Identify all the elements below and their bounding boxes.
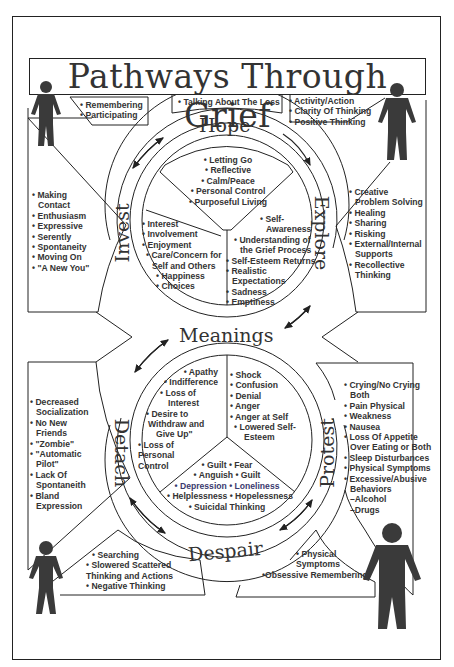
list-item: Symptoms	[262, 559, 368, 569]
list-item: • Happiness	[142, 271, 222, 281]
list-item: • Loss of	[138, 388, 218, 398]
box-right-lower: • Crying/No Crying Both • Pain Physical …	[344, 380, 431, 515]
sector-despair: • Guilt • Fear • Anguish • Guilt • Depre…	[167, 460, 287, 512]
box-left-lower: • Decreased Socialization • No New Frien…	[30, 397, 89, 511]
list-item: • Creative	[349, 187, 423, 197]
list-item: Problem Solving	[349, 197, 423, 207]
list-item: • Recollective	[349, 260, 423, 270]
list-item: • Helplessness • Hopelessness	[167, 491, 287, 501]
list-item: • Loss Of Appetite	[344, 432, 431, 442]
list-item: • Weakness	[344, 411, 431, 421]
list-item: • Indifference	[138, 377, 218, 387]
list-item: Give Up"	[138, 429, 218, 439]
list-item: • Interest	[142, 219, 222, 229]
list-item: Esteem	[230, 432, 296, 442]
list-item: • Reflective	[183, 165, 273, 175]
list-item: • Letting Go	[183, 155, 273, 165]
list-item: • Spontaneity	[32, 242, 89, 252]
list-item: –Alcohol	[344, 494, 431, 504]
list-item: • Sadness	[226, 287, 315, 297]
list-item: Supports	[349, 249, 423, 259]
list-item: • Involvement	[142, 229, 222, 239]
list-item: • Crying/No Crying	[344, 380, 431, 390]
list-item: • Self-	[226, 214, 315, 224]
list-item: • Anguish • Guilt	[167, 470, 287, 480]
box-top-left: • Remembering • Participating	[80, 100, 143, 121]
stage-protest: Protest	[316, 418, 338, 488]
list-item: Both	[344, 390, 431, 400]
list-item: • Self-Esteem Returns	[226, 256, 315, 266]
list-item: • Sharing	[349, 218, 423, 228]
list-item: • Slowered Scattered	[86, 560, 173, 570]
list-item: • Sleep Disturbances	[344, 453, 431, 463]
list-item: Thinking	[349, 270, 423, 280]
list-item: Contact	[32, 200, 89, 210]
list-item: • Lack Of	[30, 470, 89, 480]
list-item: • Clarity Of Thinking	[289, 106, 371, 116]
list-item: • Understanding of	[226, 235, 315, 245]
sector-explore: • Self- Awareness • Understanding of the…	[226, 214, 315, 308]
list-item: • Anger at Self	[230, 412, 296, 422]
list-item: • Physical Symptoms	[344, 463, 431, 473]
list-item: • Negative Thinking	[86, 581, 173, 591]
sector-hope: • Letting Go • Reflective • Calm/Peace •…	[183, 155, 273, 207]
list-item: • Realistic	[226, 266, 315, 276]
list-item: • Searching	[86, 550, 173, 560]
box-left-upper: • Making Contact • Enthusiasm • Expressi…	[32, 190, 89, 273]
list-item: Thinking and Actions	[86, 571, 173, 581]
list-item: • Physical	[262, 549, 368, 559]
list-item: • "Automatic	[30, 449, 89, 459]
list-item: • Guilt • Fear	[167, 460, 287, 470]
list-item: • Positive Thinking	[289, 117, 371, 127]
list-item: • Excessive/Abusive	[344, 474, 431, 484]
list-item: • Nausea	[344, 422, 431, 432]
title-box: Pathways Through Grief	[29, 58, 426, 95]
list-item: • Healing	[349, 208, 423, 218]
list-item: • Depression • Loneliness	[167, 481, 287, 491]
list-item: Withdraw and	[138, 419, 218, 429]
stage-detach: Detach	[111, 419, 133, 487]
list-item: Friends	[30, 428, 89, 438]
list-item: • Serently	[32, 232, 89, 242]
list-item: Expression	[30, 501, 89, 511]
list-item: the Grief Process	[226, 245, 315, 255]
box-top-center: • Talking About The Loss	[178, 97, 280, 107]
list-item: •Obsessive Remembering	[262, 570, 368, 580]
list-item: • Apathy	[138, 367, 218, 377]
list-item: • Choices	[142, 281, 222, 291]
list-item: • Remembering	[80, 100, 143, 110]
list-item: Socialization	[30, 407, 89, 417]
list-item: • Personal Control	[183, 186, 273, 196]
sector-protest: • Shock • Confusion • Denial • Anger • A…	[230, 370, 296, 443]
list-item: • Calm/Peace	[183, 176, 273, 186]
box-bottom-left: • Searching • Slowered Scattered Thinkin…	[86, 550, 173, 592]
box-right-upper: • Creative Problem Solving • Healing • S…	[349, 187, 423, 281]
list-item: • "A New You"	[32, 263, 89, 273]
list-item: • Enjoyment	[142, 240, 222, 250]
stage-meanings: Meanings	[179, 324, 274, 346]
list-item: • Making	[32, 190, 89, 200]
list-item: • Participating	[80, 110, 143, 120]
list-item: Behaviors	[344, 484, 431, 494]
list-item: • Confusion	[230, 380, 296, 390]
list-item: Spontaneith	[30, 480, 89, 490]
list-item: • Denial	[230, 391, 296, 401]
list-item: • Moving On	[32, 252, 89, 262]
box-top-right: • Activity/Action • Clarity Of Thinking …	[289, 96, 371, 127]
box-bottom-right: • Physical Symptoms •Obsessive Rememberi…	[262, 549, 368, 580]
list-item: –Drugs	[344, 505, 431, 515]
list-item: • Risking	[349, 229, 423, 239]
list-item: • Purposeful Living	[183, 197, 273, 207]
list-item: • Lowered Self-	[230, 422, 296, 432]
list-item: • Talking About The Loss	[178, 97, 280, 107]
list-item: Interest	[138, 398, 218, 408]
stage-hope: Hope	[199, 114, 250, 136]
list-item: • Enthusiasm	[32, 211, 89, 221]
list-item: • Expressive	[32, 221, 89, 231]
list-item: • Pain Physical	[344, 401, 431, 411]
person-figure-icon	[359, 521, 425, 631]
sector-detach: • Apathy • Indifference • Loss of Intere…	[138, 367, 218, 471]
list-item: • Activity/Action	[289, 96, 371, 106]
list-item: • "Zombie"	[30, 439, 89, 449]
list-item: • Emptiness	[226, 297, 315, 307]
